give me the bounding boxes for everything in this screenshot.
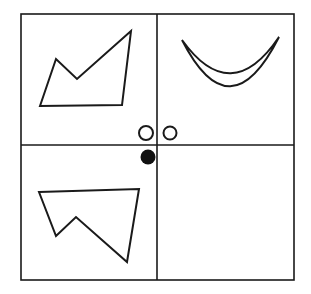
open-circle-left (139, 126, 153, 140)
quadrant-figure-canvas (0, 0, 311, 294)
open-circle-right (164, 127, 177, 140)
figure-root (0, 0, 311, 294)
figure-background (0, 0, 311, 294)
filled-circle (141, 150, 156, 165)
